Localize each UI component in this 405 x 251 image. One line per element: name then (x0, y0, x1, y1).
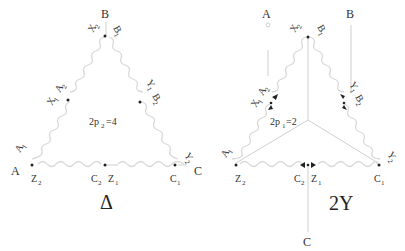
svg-text:1: 1 (115, 179, 119, 187)
svg-text:2: 2 (242, 179, 246, 187)
arrow-icon (268, 105, 273, 110)
svg-text:=2: =2 (286, 116, 297, 127)
arrow-icon (311, 162, 316, 168)
svg-text:Z: Z (235, 173, 241, 184)
winding-top-left (70, 37, 104, 92)
label-c1: C 1 (374, 173, 385, 187)
node-dot (67, 99, 70, 102)
terminal-c: C (194, 164, 202, 178)
arrow-icon (340, 94, 345, 99)
label-c2: C 2 (294, 173, 305, 187)
label-a1: A 1 (12, 140, 29, 156)
svg-text:1: 1 (348, 88, 357, 95)
label-b1: B 1 (109, 24, 126, 40)
winding-right-lower (142, 102, 178, 159)
label-a2: A 2 (52, 80, 69, 96)
label-b2: B 2 (351, 93, 368, 109)
winding-bottom-left (240, 162, 302, 167)
svg-text:1: 1 (316, 31, 325, 38)
terminal-a: A (11, 164, 20, 178)
label-b2: B 2 (148, 92, 165, 108)
label-a1: A 1 (218, 145, 235, 161)
node-dot (307, 36, 310, 39)
label-z2: Z 2 (31, 173, 42, 187)
terminal-b: B (101, 7, 109, 21)
pole-count-label: 2p 2 =4 (89, 116, 117, 130)
delta-diagram: B A C X 2 B 1 A 2 X 1 Y 1 B 2 A 1 (11, 7, 202, 213)
label-x2: X 2 (287, 20, 304, 36)
terminal-a: A (262, 7, 271, 21)
label-x1: X 1 (248, 95, 265, 111)
label-z2: Z 2 (235, 173, 246, 187)
label-b1: B 1 (313, 23, 330, 39)
label-x1: X 1 (44, 93, 61, 109)
svg-text:C: C (374, 173, 381, 184)
label-c1: C 1 (170, 173, 181, 187)
node-dot (104, 164, 107, 167)
label-x2: X 2 (85, 20, 102, 36)
label-y2: Y 2 (383, 150, 400, 166)
winding-top-right (109, 37, 143, 92)
label-z1: Z 1 (108, 173, 119, 187)
label-c2: C 2 (91, 173, 102, 187)
pole-count-label: 2p 1 =2 (270, 116, 297, 130)
double-star-symbol: 2Y (329, 192, 353, 214)
svg-text:1: 1 (177, 179, 181, 187)
winding-bottom-right (318, 162, 377, 167)
label-a2: A 2 (255, 83, 272, 99)
label-y1: Y 1 (345, 80, 362, 96)
winding-left-lower (32, 102, 70, 159)
svg-text:C: C (170, 173, 177, 184)
svg-text:1: 1 (381, 179, 385, 187)
svg-text:2p: 2p (270, 116, 280, 127)
winding-right-lower (344, 104, 380, 159)
svg-text:=4: =4 (106, 116, 117, 127)
node-dot (343, 102, 346, 105)
node-dot (378, 164, 381, 167)
terminal-a-circle (266, 23, 270, 27)
svg-text:2: 2 (386, 158, 395, 165)
svg-text:1: 1 (145, 86, 154, 93)
winding-top-right (310, 37, 344, 92)
node-dot (104, 35, 107, 38)
svg-text:Z: Z (108, 173, 114, 184)
winding-bottom-left (38, 162, 101, 167)
winding-left-lower (232, 104, 270, 159)
node-dot (31, 164, 34, 167)
node-dot (307, 164, 310, 167)
node-dot (174, 164, 177, 167)
node-dot (270, 102, 273, 105)
svg-text:2p: 2p (89, 116, 99, 127)
svg-text:Z: Z (31, 173, 37, 184)
node-dot (139, 101, 142, 104)
svg-text:2: 2 (354, 101, 363, 108)
node-dot (235, 164, 238, 167)
svg-text:2: 2 (301, 179, 305, 187)
svg-text:1: 1 (318, 179, 322, 187)
svg-text:2: 2 (98, 179, 102, 187)
arrow-icon (272, 94, 278, 100)
label-z1: Z 1 (311, 173, 322, 187)
delta-symbol: Δ (100, 191, 113, 213)
svg-text:Z: Z (311, 173, 317, 184)
svg-text:2: 2 (38, 179, 42, 187)
svg-text:2: 2 (101, 122, 105, 130)
terminal-c: C (303, 235, 311, 249)
label-y1: Y 1 (142, 78, 159, 94)
winding-top-left (272, 37, 306, 92)
pole-changing-diagram: B A C X 2 B 1 A 2 X 1 Y 1 B 2 A 1 (0, 0, 405, 251)
svg-text:C: C (294, 173, 301, 184)
svg-text:C: C (91, 173, 98, 184)
svg-text:1: 1 (112, 32, 121, 39)
double-star-diagram: A B C X 2 B 1 A 2 X 1 Y 1 B 2 A 1 (218, 7, 400, 249)
terminal-b: B (346, 7, 354, 21)
svg-text:2: 2 (151, 100, 160, 107)
